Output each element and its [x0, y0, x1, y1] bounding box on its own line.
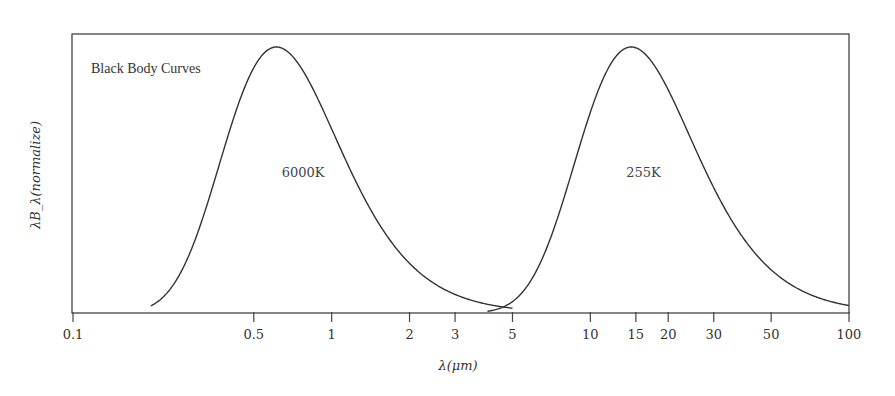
x-axis-ticks: 0.10.512351015203050100 [63, 312, 862, 342]
series-label-6000K: 6000K [282, 165, 325, 180]
curve-6000K [151, 47, 513, 308]
x-tick-label: 20 [660, 327, 677, 342]
curves [151, 47, 849, 311]
series-labels: 6000K255K [282, 165, 661, 180]
x-tick-label: 30 [705, 327, 722, 342]
x-tick-label: 100 [837, 327, 862, 342]
x-tick-label: 0.5 [243, 327, 264, 342]
x-tick-label: 0.1 [63, 327, 84, 342]
x-tick-label: 5 [508, 327, 516, 342]
y-axis-label: λB_λ(normalize) [28, 121, 43, 230]
curve-255K [487, 47, 849, 311]
series-label-255K: 255K [626, 165, 661, 180]
x-tick-label: 50 [763, 327, 780, 342]
black-body-chart: Black Body Curves λB_λ(normalize) λ(μm) … [0, 0, 895, 396]
y-axis-label-group: λB_λ(normalize) [28, 121, 43, 230]
x-tick-label: 15 [628, 327, 645, 342]
x-tick-label: 3 [451, 327, 459, 342]
x-tick-label: 10 [582, 327, 599, 342]
x-tick-label: 1 [328, 327, 336, 342]
x-tick-label: 2 [405, 327, 413, 342]
x-axis-label: λ(μm) [437, 358, 477, 373]
chart-title: Black Body Curves [91, 61, 201, 76]
